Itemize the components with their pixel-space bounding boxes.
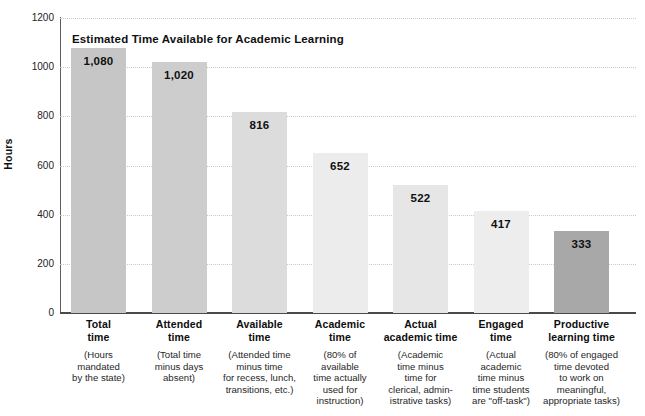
category-name: Productivelearning time — [536, 318, 628, 343]
bar: 522 — [393, 185, 448, 313]
gridline — [60, 18, 636, 19]
x-axis-category-label: Attendedtime(Total timeminus daysabsent) — [133, 318, 225, 384]
y-axis-tick-label: 1200 — [8, 12, 54, 23]
bar-value-label: 816 — [232, 119, 287, 131]
bar: 816 — [232, 112, 287, 313]
category-name: Attendedtime — [133, 318, 225, 343]
bar-value-label: 652 — [313, 160, 368, 172]
bar: 652 — [313, 153, 368, 313]
category-description: (Hoursmandatedby the state) — [53, 349, 145, 384]
category-name: Availabletime — [214, 318, 306, 343]
bar-value-label: 1,080 — [71, 55, 126, 67]
category-description: (Total timeminus daysabsent) — [133, 349, 225, 384]
bar: 1,020 — [152, 62, 207, 313]
gridline — [60, 116, 636, 117]
x-axis-category-label: Availabletime(Attended timeminus timefor… — [214, 318, 306, 395]
category-name: Totaltime — [53, 318, 145, 343]
category-name: Engagedtime — [455, 318, 547, 343]
y-axis-tick-label: 200 — [8, 258, 54, 269]
y-axis-tick-label: 600 — [8, 160, 54, 171]
category-description: (80% ofavailabletime actuallyused forins… — [294, 349, 386, 407]
y-axis-title: Hours — [2, 124, 14, 184]
category-description: (Attended timeminus timefor recess, lunc… — [214, 349, 306, 395]
x-axis-category-label: Totaltime(Hoursmandatedby the state) — [53, 318, 145, 384]
y-axis-tick-label: 0 — [8, 307, 54, 318]
bar: 1,080 — [71, 48, 126, 314]
category-name: Actualacademic time — [375, 318, 467, 343]
bar-value-label: 1,020 — [152, 69, 207, 81]
category-description: (Actualacademictime minustime studentsar… — [455, 349, 547, 407]
y-axis-tick-label: 400 — [8, 209, 54, 220]
y-axis-tick-label: 1000 — [8, 61, 54, 72]
category-name: Academictime — [294, 318, 386, 343]
bar-value-label: 522 — [393, 192, 448, 204]
x-axis-category-label: Actualacademic time(Academictime minusti… — [375, 318, 467, 407]
category-description: (Academictime minustime forclerical, adm… — [375, 349, 467, 407]
category-description: (80% of engagedtime devotedto work onmea… — [536, 349, 628, 407]
x-axis-category-label: Engagedtime(Actualacademictime minustime… — [455, 318, 547, 407]
chart-title: Estimated Time Available for Academic Le… — [72, 33, 344, 45]
bar-value-label: 333 — [554, 238, 609, 250]
x-axis-category-label: Academictime(80% ofavailabletime actuall… — [294, 318, 386, 407]
bar: 417 — [474, 211, 529, 314]
bar-value-label: 417 — [474, 218, 529, 230]
plot-area: 1,0801,020816652522417333 — [60, 18, 636, 313]
y-axis-tick-label: 800 — [8, 110, 54, 121]
gridline — [60, 67, 636, 68]
bar: 333 — [554, 231, 609, 313]
bar-chart: Hours 020040060080010001200 1,0801,02081… — [0, 0, 645, 416]
x-axis-category-label: Productivelearning time(80% of engagedti… — [536, 318, 628, 407]
